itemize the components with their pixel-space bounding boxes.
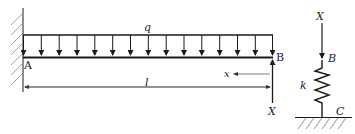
load-label-q: q — [144, 21, 151, 34]
load-arrows — [24, 35, 273, 55]
spring-force-label-x: X — [315, 10, 325, 23]
fixed-wall-support — [11, 8, 23, 92]
length-label-l: l — [145, 76, 149, 89]
spring-model: X B k C — [295, 10, 352, 129]
spring-bottom-label-c: C — [336, 105, 345, 118]
ground-hatching — [298, 118, 346, 129]
spring-coil — [315, 60, 329, 117]
spring-top-label-b: B — [327, 52, 336, 65]
point-label-b: B — [276, 51, 284, 64]
reaction-label-x: X — [267, 105, 277, 118]
length-dimension: l — [25, 76, 270, 89]
cantilever-spring-diagram: q A B X x l X B k C — [0, 0, 355, 134]
reaction-force-x: X — [267, 60, 277, 118]
point-label-a: A — [23, 59, 33, 72]
distributed-load: q — [23, 21, 273, 55]
coordinate-x-arrow: x — [224, 68, 270, 79]
coordinate-label-x: x — [224, 68, 230, 79]
spring-stiffness-label-k: k — [300, 79, 307, 92]
